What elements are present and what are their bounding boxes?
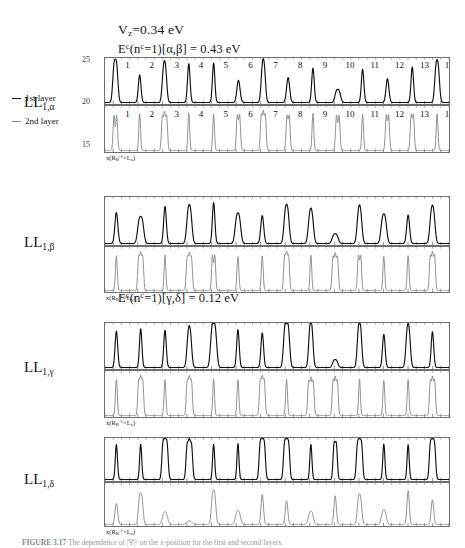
- peak-number-LL1alpha-top-1: 1: [125, 60, 130, 70]
- ll-subscript: 1,δ: [42, 478, 54, 489]
- panel-LL1beta-bottom: 0.10|ψ|2: [104, 246, 450, 293]
- xaxis-title-LL1beta: x(RB-1×Lz): [106, 294, 135, 302]
- e-mid: (n: [130, 42, 141, 56]
- peak-number-LL1alpha-top-13: 13: [420, 60, 429, 70]
- figure-caption: FIGURE 3.17 The dependence of |Ψ|² on th…: [22, 538, 452, 547]
- legend-line-black-icon: [12, 98, 21, 99]
- peak-number-LL1alpha-bottom-10: 10: [345, 109, 354, 119]
- panel-LL1gamma-top: 0.010|ψ|2: [104, 322, 450, 370]
- panel-LL1alpha-bottom: 0.10|ψ|21234567891011121314: [104, 105, 450, 153]
- ll-label-LL1gamma: LL1,γ: [24, 359, 54, 377]
- vz-symbol: V: [118, 22, 128, 37]
- peak-number-LL1alpha-top-9: 9: [323, 60, 328, 70]
- peak-number-LL1alpha-bottom-13: 13: [420, 109, 429, 119]
- panel-group-LL1gamma: LL1,γ0.010|ψ|20.10|ψ|2x(RB-1×Lz): [104, 322, 450, 418]
- peak-number-LL1alpha-bottom-5: 5: [224, 109, 229, 119]
- e-tail: =1)[α,β] = 0.43 eV: [144, 42, 241, 56]
- ll-base: LL: [24, 94, 42, 110]
- ll-label-LL1beta: LL1,β: [24, 234, 54, 252]
- peak-number-LL1alpha-bottom-12: 12: [395, 109, 404, 119]
- annotation-energy-alpha-beta: Ec(nc=1)[α,β] = 0.43 eV: [118, 41, 241, 57]
- ll-subscript: 1,γ: [42, 366, 53, 377]
- legend-second-layer: 2nd layer: [12, 116, 59, 126]
- panel-LL1alpha-top: 0.010|ψ|21234567891011121314: [104, 57, 450, 105]
- caption-text: The dependence of |Ψ|² on the x-position…: [66, 538, 283, 547]
- legend-second-layer-label: 2nd layer: [25, 116, 59, 126]
- peak-number-LL1alpha-bottom-9: 9: [323, 109, 328, 119]
- ll-base: LL: [24, 359, 42, 375]
- peak-number-LL1alpha-top-12: 12: [395, 60, 404, 70]
- peak-number-LL1alpha-top-6: 6: [248, 60, 253, 70]
- peak-number-LL1alpha-top-14: 14: [445, 60, 450, 70]
- outer-axis-label-15: 15: [74, 140, 90, 149]
- ll-base: LL: [24, 471, 42, 487]
- ll-base: LL: [24, 234, 42, 250]
- peak-number-LL1alpha-top-7: 7: [273, 60, 278, 70]
- e-symbol: E: [118, 42, 126, 56]
- peak-number-LL1alpha-top-2: 2: [150, 60, 155, 70]
- peak-number-LL1alpha-bottom-8: 8: [298, 109, 303, 119]
- panel-LL1delta-top: 0.10|ψ|2: [104, 437, 450, 482]
- panel-LL1gamma-bottom: 0.10|ψ|2: [104, 370, 450, 418]
- figure-root: Vz=0.34 eV Ec(nc=1)[α,β] = 0.43 eV Ec(nc…: [0, 0, 465, 548]
- panel-LL1delta-bottom: 0.010|ψ|2: [104, 482, 450, 527]
- xaxis-title-LL1alpha: x(RB-1×Lz): [106, 154, 135, 162]
- legend-line-gray-icon: [12, 121, 21, 122]
- peak-number-LL1alpha-bottom-11: 11: [370, 109, 379, 119]
- ll-label-LL1alpha: LL1,α: [24, 94, 55, 112]
- xaxis-title-LL1delta: x(RB-1×Lz): [106, 528, 135, 536]
- peak-number-LL1alpha-top-10: 10: [345, 60, 354, 70]
- outer-axis-label-25: 25: [74, 55, 90, 64]
- peak-number-LL1alpha-top-5: 5: [224, 60, 229, 70]
- peak-number-LL1alpha-top-11: 11: [370, 60, 379, 70]
- ll-subscript: 1,α: [42, 101, 54, 112]
- outer-axis-label-20: 20: [74, 97, 90, 106]
- caption-label: FIGURE 3.17: [22, 538, 66, 547]
- peak-number-LL1alpha-bottom-7: 7: [273, 109, 278, 119]
- panel-group-LL1delta: LL1,δ0.10|ψ|20.010|ψ|2x(RB-1×Lz): [104, 437, 450, 527]
- vz-value: =0.34 eV: [132, 22, 184, 37]
- peak-number-LL1alpha-bottom-14: 14: [445, 109, 450, 119]
- panel-LL1beta-top: 0.020.010|ψ|2: [104, 196, 450, 246]
- peak-number-LL1alpha-top-8: 8: [298, 60, 303, 70]
- peak-number-LL1alpha-bottom-1: 1: [125, 109, 130, 119]
- peak-number-LL1alpha-bottom-2: 2: [150, 109, 155, 119]
- peak-number-LL1alpha-bottom-3: 3: [174, 109, 179, 119]
- ll-label-LL1delta: LL1,δ: [24, 471, 54, 489]
- peak-number-LL1alpha-top-4: 4: [199, 60, 204, 70]
- peak-number-LL1alpha-bottom-4: 4: [199, 109, 204, 119]
- peak-number-LL1alpha-top-3: 3: [174, 60, 179, 70]
- panel-group-LL1alpha: LL1,α0.010|ψ|212345678910111213140.10|ψ|…: [104, 57, 450, 153]
- ll-subscript: 1,β: [42, 240, 54, 251]
- xaxis-title-LL1gamma: x(RB-1×Lz): [106, 419, 135, 427]
- peak-number-LL1alpha-bottom-6: 6: [248, 109, 253, 119]
- panel-group-LL1beta: LL1,β0.020.010|ψ|20.10|ψ|2x(RB-1×Lz): [104, 196, 450, 293]
- annotation-vz: Vz=0.34 eV: [118, 22, 184, 38]
